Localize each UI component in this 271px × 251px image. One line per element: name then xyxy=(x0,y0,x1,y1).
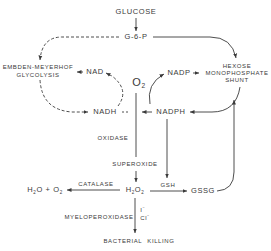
myeloperoxidase-label: MYELOPEROXIDASE xyxy=(64,214,133,220)
water-oxygen-label: H2O + O2 xyxy=(27,186,62,196)
nadp-label: NADP xyxy=(167,69,190,77)
oxidase-label: OXIDASE xyxy=(98,135,129,141)
halide-ions-label: I− Cl− xyxy=(140,207,150,221)
hmp-line2: MONOPHOSPHATE xyxy=(205,70,268,76)
bacterial-killing-label: BACTERIAL KILLING xyxy=(104,238,175,244)
glycolysis-line2: GLYCOLYSIS xyxy=(3,72,74,78)
o2-label: O2 xyxy=(132,77,145,90)
chloride-label: Cl− xyxy=(140,215,150,221)
hmp-to-nadph-arrow xyxy=(190,87,240,112)
glycolysis-line1: EMBDEN-MEYERHOF xyxy=(3,64,74,70)
g6p-label: G-6-P xyxy=(124,33,147,41)
g6p-to-hmp-arrow xyxy=(153,37,236,58)
glycolysis-to-nadh-arrow xyxy=(40,80,88,112)
nad-label: NAD xyxy=(86,68,104,76)
hmp-line3: SHUNT xyxy=(205,77,268,83)
g6p-to-glycolysis-arrow xyxy=(40,37,119,60)
glycolysis-label: EMBDEN-MEYERHOF GLYCOLYSIS xyxy=(3,64,74,78)
h2o2-label: H2O2 xyxy=(126,186,145,196)
o2-sub: 2 xyxy=(141,82,145,89)
gsh-label: GSH xyxy=(161,182,176,188)
nadph-label: NADPH xyxy=(156,108,185,116)
gssg-to-hmp-arrow xyxy=(217,100,234,191)
nadh-label: NADH xyxy=(93,108,117,116)
catalase-label: CATALASE xyxy=(78,181,113,187)
o2-base: O xyxy=(132,76,141,88)
hmp-line1: HEXOSE xyxy=(205,63,268,69)
nadph-to-nadp-arrow xyxy=(149,74,164,104)
glucose-label: GLUCOSE xyxy=(116,8,157,16)
superoxide-label: SUPEROXIDE xyxy=(112,161,157,167)
hmp-shunt-label: HEXOSE MONOPHOSPHATE SHUNT xyxy=(205,63,268,83)
nadh-to-nad-arrow xyxy=(106,73,123,106)
gssg-label: GSSG xyxy=(191,187,215,195)
iodide-label: I− xyxy=(140,207,150,213)
